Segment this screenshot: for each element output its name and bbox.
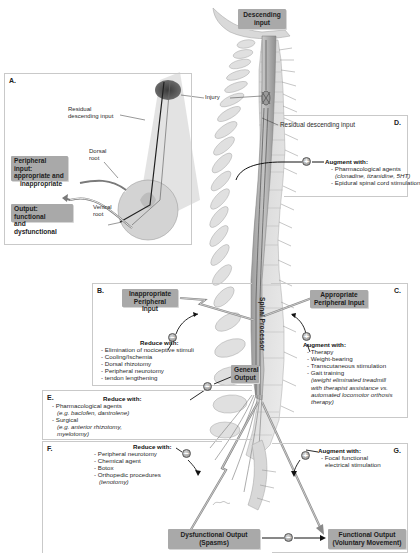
dorsal-root-line1: Dorsal	[89, 148, 106, 155]
panel-b-item-3: - Dorsal rhizotomy	[101, 360, 194, 367]
panel-e-item-1-detail: (e.g. baclofen, dantrolene)	[52, 409, 142, 416]
panel-f-item-4: - Orthopedic procedures	[94, 471, 172, 478]
panel-c-item-3: - Transcutaneous stimulation	[303, 362, 393, 369]
descending-input-line1: Descending	[241, 11, 283, 19]
ventral-root-line1: Ventral	[93, 204, 112, 211]
panel-f-item-1: - Peripheral neurotomy	[94, 450, 172, 457]
panel-a-residual-line2: descending input	[68, 113, 113, 120]
panel-d-item-2: - Epidural spinal cord stimulation	[325, 179, 420, 186]
panel-b-text: Reduce with: - Elimination of nociceptiv…	[101, 339, 194, 382]
plus-sign-d: +	[304, 158, 309, 166]
dorsal-root-label: Dorsal root	[89, 148, 106, 162]
panel-g-item-1: - Focal functional	[318, 454, 381, 461]
plus-circle-icon-g: +	[301, 451, 310, 460]
panel-f-letter: F.	[47, 445, 52, 452]
panel-d-heading: Augment with:	[325, 158, 420, 165]
panel-c-letter: C.	[394, 287, 401, 294]
panel-e-item-2-detail-1: (e.g. anterior rhizotomy,	[52, 423, 142, 430]
panel-g-heading: Augment with:	[318, 447, 381, 454]
panel-a-residual-label: Residual descending input	[68, 106, 113, 120]
injury-site	[262, 91, 270, 105]
panel-b-item-5: - tendon lengthening	[101, 374, 194, 381]
plus-sign-c: +	[304, 333, 309, 341]
injury-label: Injury	[205, 94, 220, 101]
dorsal-root-line2: root	[89, 155, 106, 162]
plus-sign-g: +	[303, 452, 308, 460]
panel-g-item-2: electrical stimulation	[318, 461, 381, 468]
panel-d-item-1: - Pharmacological agents	[325, 165, 420, 172]
inappropriate-input-line1: Inappropriate	[125, 290, 175, 298]
panel-f-item-2: - Chemical agent	[94, 457, 172, 464]
minus-circle-icon-e: −	[203, 382, 212, 391]
functional-output-line2: (Voluntary Movement)	[331, 539, 403, 547]
panel-f-item-3: - Botox	[94, 464, 172, 471]
appropriate-input-line1: Appropriate	[313, 291, 365, 299]
functional-output-line1: Functional Output	[331, 531, 403, 539]
panel-a-letter: A.	[9, 77, 16, 84]
output-line1: Output: functional	[14, 205, 70, 220]
general-output-line1: General	[234, 366, 256, 374]
peripheral-input-line2: appropriate and	[14, 172, 65, 180]
panel-c-detail-2: with therapist assistance vs.	[303, 384, 393, 391]
minus-sign-f: −	[184, 450, 189, 458]
panel-a-residual-line1: Residual	[68, 106, 113, 113]
functional-output-box: Functional Output (Voluntary Movement)	[328, 529, 406, 549]
appropriate-input-box: Appropriate Peripheral Input	[310, 290, 368, 308]
minus-circle-icon-link: −	[284, 533, 293, 542]
panel-c-text: Augment with: - Therapy - Weight-bearing…	[303, 341, 393, 405]
panel-f-text: Reduce with: - Peripheral neurotomy - Ch…	[94, 443, 172, 486]
dysfunctional-output-line1: Dysfunctional Output	[171, 531, 257, 539]
spinal-processor-label: Spinal Processor	[259, 297, 266, 351]
appropriate-input-line2: Peripheral Input	[313, 299, 365, 307]
dysfunctional-output-line2: (Spasms)	[171, 539, 257, 547]
general-output-line2: Output	[234, 374, 256, 382]
panel-g-letter: G.	[394, 447, 401, 454]
output-box: Output: functional and dysfunctional	[11, 204, 73, 222]
inappropriate-input-line2: Peripheral Input	[125, 298, 175, 313]
panel-e-item-1: - Pharmacological agents	[52, 402, 142, 409]
panel-e-text: Reduce with: - Pharmacological agents (e…	[52, 395, 142, 438]
descending-input-line2: input	[241, 19, 283, 27]
panel-b-heading: Reduce with:	[101, 339, 194, 346]
residual-descending-input-label: Residual descending input	[280, 121, 355, 128]
dysfunctional-output-box: Dysfunctional Output (Spasms)	[168, 529, 260, 549]
panel-e-item-2-detail-2: myelotomy)	[52, 430, 142, 437]
panel-b-letter: B.	[97, 287, 104, 294]
panel-f-detail: (tenotomy)	[94, 478, 172, 485]
peripheral-input-line3: inappropriate	[14, 180, 65, 188]
descending-input-box: Descending input	[238, 9, 286, 29]
panel-c-detail-4: therapy)	[303, 398, 393, 405]
panel-c-detail-1: (weight eliminated treadmill	[303, 376, 393, 383]
panel-d-text: Augment with: - Pharmacological agents (…	[325, 158, 420, 186]
panel-c-item-4: - Gait training	[303, 369, 393, 376]
plus-circle-icon-c: +	[302, 332, 311, 341]
output-line2: and dysfunctional	[14, 220, 70, 235]
panel-d-letter: D.	[394, 119, 401, 126]
ventral-root-label: Ventral root	[93, 204, 112, 218]
panel-f-heading: Reduce with:	[94, 443, 172, 450]
panel-c-heading: Augment with:	[303, 341, 393, 348]
minus-circle-icon-f: −	[182, 449, 191, 458]
panel-b-item-2: - Cooling/Ischemia	[101, 353, 194, 360]
plus-circle-icon-d: +	[302, 157, 311, 166]
general-output-box: General Output	[231, 365, 259, 383]
panel-e-item-2: - Surgical	[52, 416, 142, 423]
panel-c-item-2: - Weight-bearing	[303, 355, 393, 362]
inappropriate-input-box: Inappropriate Peripheral Input	[122, 289, 178, 307]
panel-e-heading: Reduce with:	[52, 395, 142, 402]
minus-sign-e: −	[205, 383, 210, 391]
peripheral-input-line1: Peripheral input:	[14, 157, 65, 172]
panel-d-item-1-detail: (clonadine, tizanidine, 5HT)	[325, 172, 420, 179]
panel-b-item-1: - Elimination of nociceptive stimuli	[101, 346, 194, 353]
peripheral-input-box: Peripheral input: appropriate and inappr…	[11, 156, 68, 181]
panel-c-item-1: - Therapy	[303, 348, 393, 355]
panel-c-detail-3: automated locomotor orthosis	[303, 391, 393, 398]
ventral-root-line2: root	[93, 211, 112, 218]
minus-sign-link: −	[286, 534, 291, 542]
panel-b-item-4: - Peripheral neurotomy	[101, 367, 194, 374]
panel-g-text: Augment with: - Focal functional electri…	[318, 447, 381, 468]
